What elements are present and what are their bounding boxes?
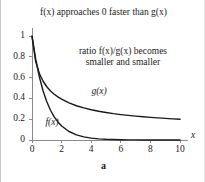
figure-caption: a [1,160,205,171]
y-tick-label: 0.2 [1,113,25,124]
y-tick-label: 0.8 [1,51,25,62]
x-tick-label: 6 [112,144,130,155]
y-tick-label: 1 [1,30,25,41]
annotation-line-2: smaller and smaller [53,57,193,68]
x-tick-label: 4 [82,144,100,155]
chart-title: f(x) approaches 0 faster than g(x) [1,7,205,18]
figure-panel: f(x) approaches 0 faster than g(x) ratio… [0,0,205,182]
y-tick-label: 0 [1,134,25,145]
curve-label-gx: g(x) [91,86,106,97]
annotation-ratio-note: ratio f(x)/g(x) becomes smaller and smal… [53,46,193,67]
x-tick-label: 10 [171,144,189,155]
x-tick-label: 8 [141,144,159,155]
x-tick-label: 2 [53,144,71,155]
x-tick-label: 0 [23,144,41,155]
x-axis-name: x [191,130,195,141]
y-tick-label: 0.6 [1,72,25,83]
annotation-line-1: ratio f(x)/g(x) becomes [53,46,193,57]
y-tick-label: 0.4 [1,92,25,103]
curve-label-fx: f(x) [45,117,58,128]
